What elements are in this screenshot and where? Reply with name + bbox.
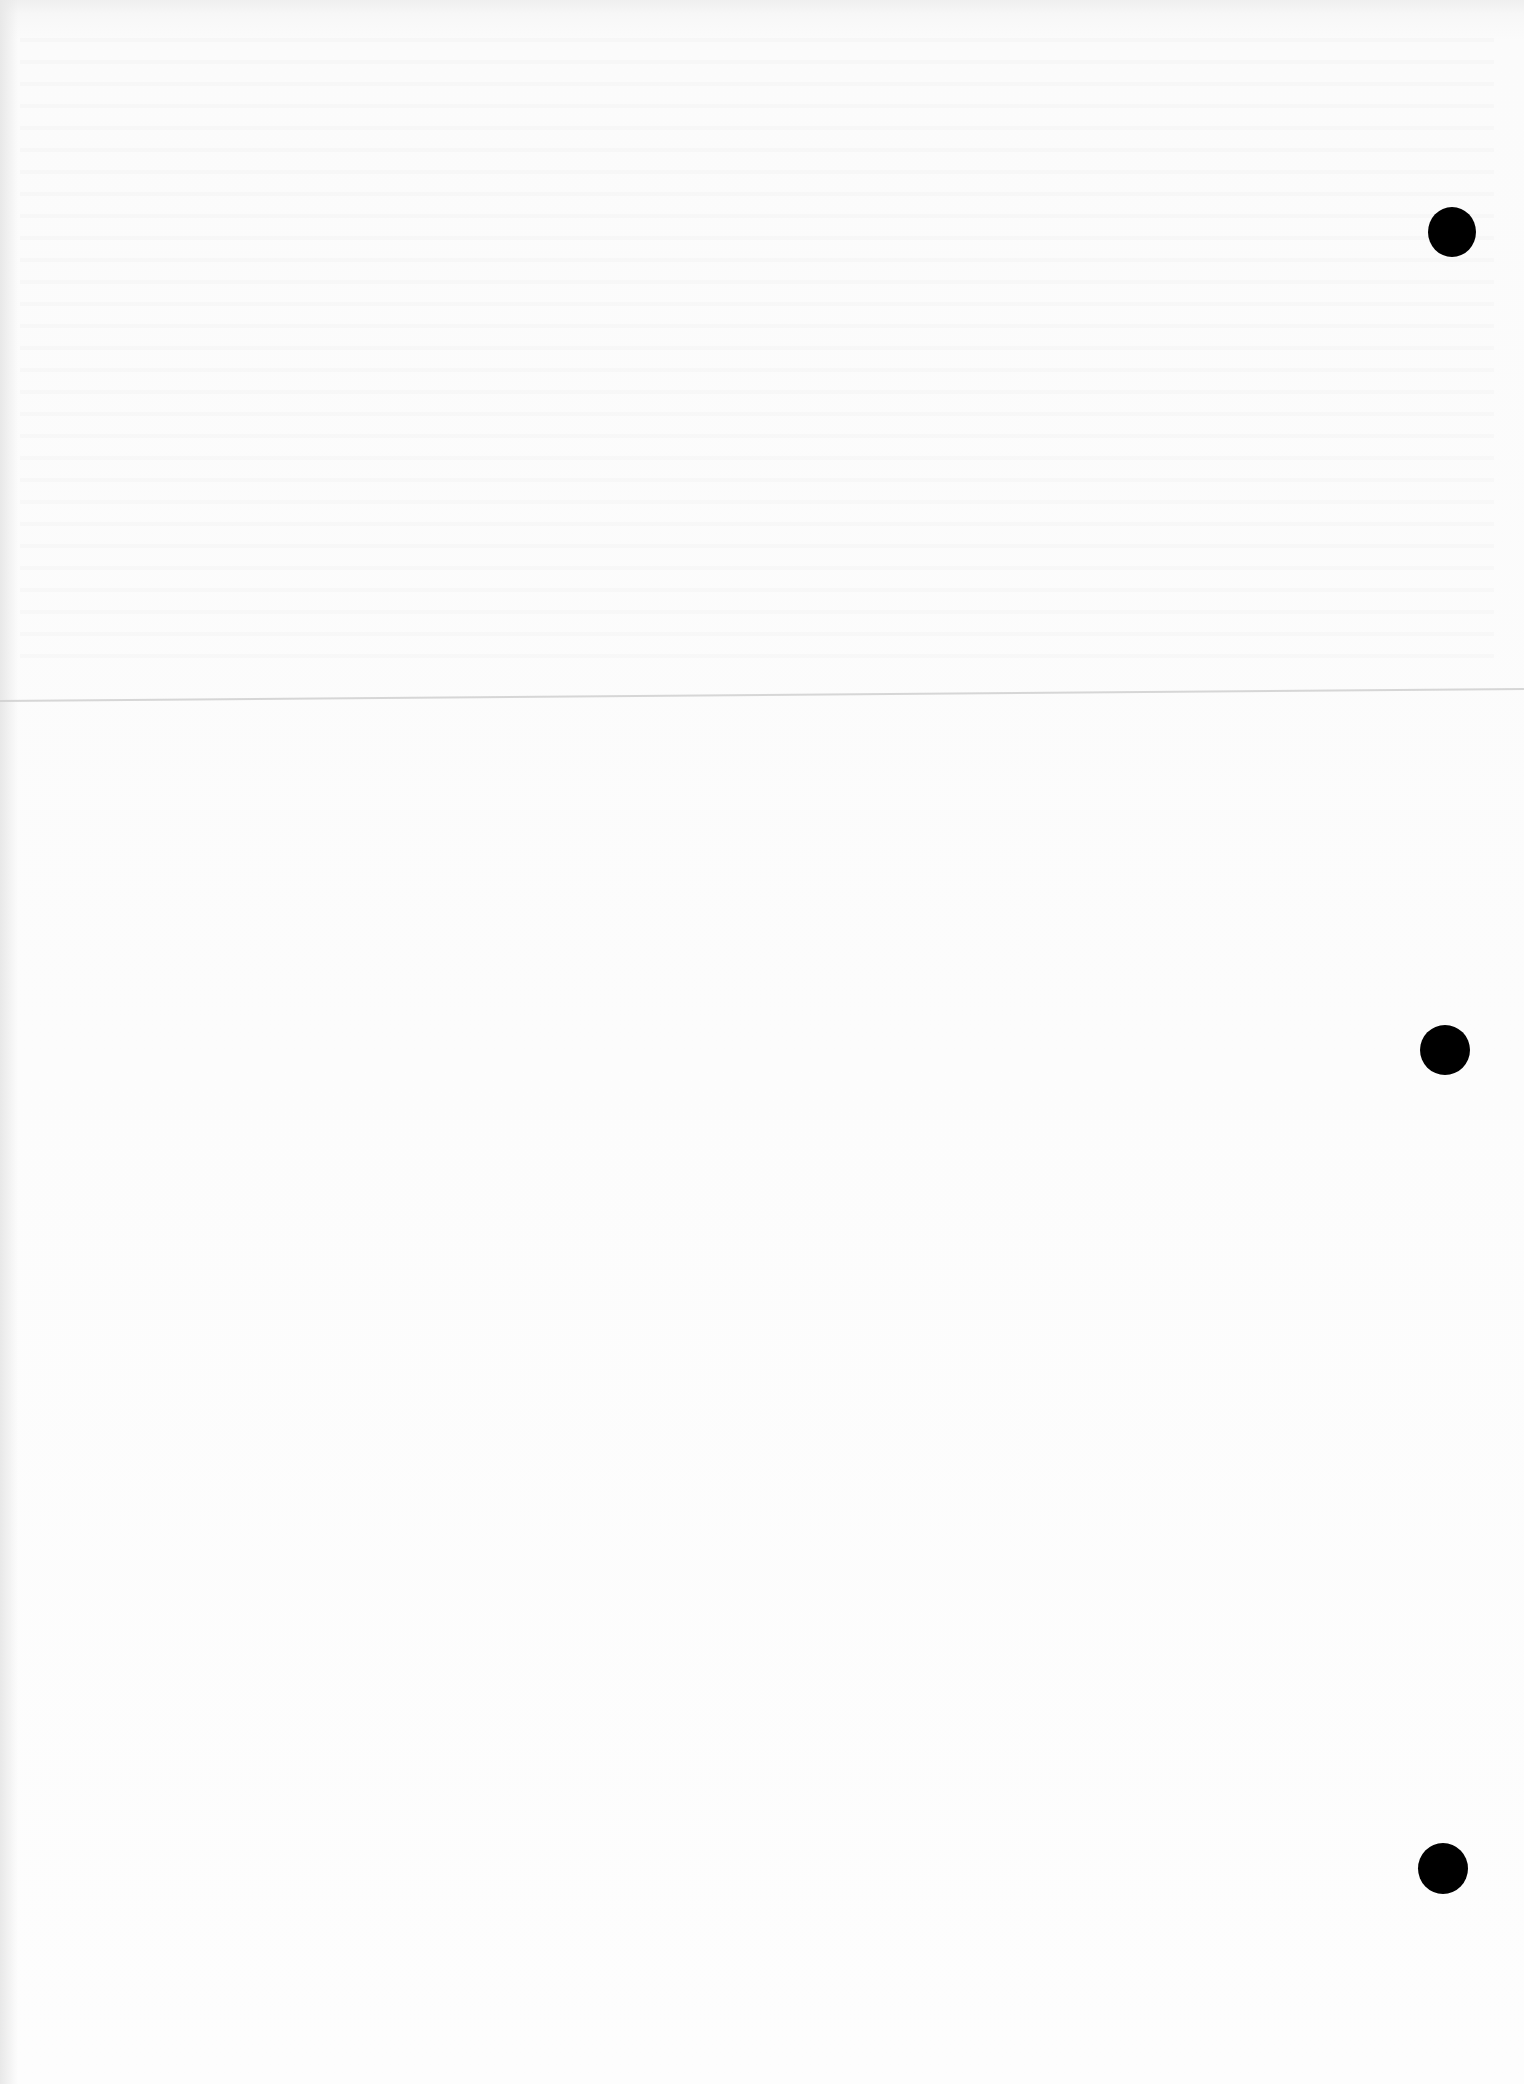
- bleed-through-texture: [20, 20, 1494, 660]
- punch-hole-middle: [1420, 1025, 1470, 1075]
- punch-hole-bottom: [1418, 1843, 1468, 1894]
- punch-hole-top: [1428, 207, 1476, 257]
- fold-line: [0, 688, 1524, 702]
- blank-page: [0, 0, 1524, 2084]
